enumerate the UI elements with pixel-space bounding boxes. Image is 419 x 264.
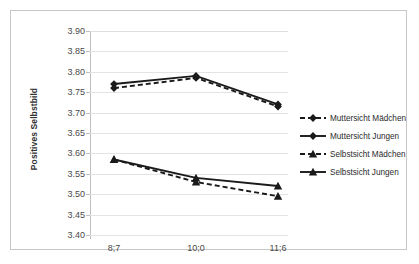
series-lines — [90, 31, 288, 235]
y-axis-tick-label: 3.40 — [43, 230, 85, 240]
y-axis-tick-label: 3.75 — [43, 87, 85, 97]
data-point-marker — [274, 192, 282, 200]
y-axis-title-text: Positives Selbstbild — [29, 88, 39, 170]
data-point-marker — [110, 80, 118, 88]
plot-area: 8;710;011;6 — [90, 31, 288, 235]
grid-line — [90, 235, 288, 236]
legend-item: Selbstsicht Jungen — [299, 163, 419, 181]
legend-label: Selbstsicht Jungen — [330, 168, 399, 177]
legend-label: Selbstsicht Mädchen — [330, 150, 406, 159]
legend-label: Muttersicht Mädchen — [330, 114, 406, 123]
y-axis-tick-label: 3.45 — [43, 210, 85, 220]
y-axis-tick-label: 3.55 — [43, 169, 85, 179]
y-axis-tick-label: 3.80 — [43, 67, 85, 77]
y-axis-tick — [86, 235, 90, 236]
y-axis-tick-label: 3.60 — [43, 148, 85, 158]
x-axis-tick-label: 10;0 — [187, 243, 205, 253]
legend-marker-diamond-icon — [299, 111, 327, 125]
legend-marker-diamond-icon — [299, 129, 327, 143]
legend-item: Muttersicht Jungen — [299, 127, 419, 145]
y-axis-tick-label: 3.50 — [43, 189, 85, 199]
legend-label: Muttersicht Jungen — [330, 132, 399, 141]
x-axis-tick-label: 8;7 — [108, 243, 121, 253]
legend-item: Muttersicht Mädchen — [299, 109, 419, 127]
y-axis-tick-label: 3.65 — [43, 128, 85, 138]
y-axis-title: Positives Selbstbild — [25, 59, 43, 199]
chart-frame: Positives Selbstbild 3.903.853.803.753.7… — [10, 10, 407, 250]
x-axis-tick-label: 11;6 — [270, 243, 287, 253]
y-axis-tick-label: 3.90 — [43, 26, 85, 36]
legend-marker-triangle-icon — [299, 165, 327, 179]
y-axis-tick-labels: 3.903.853.803.753.703.653.603.553.503.45… — [43, 31, 85, 235]
legend-marker-triangle-icon — [299, 147, 327, 161]
legend-item: Selbstsicht Mädchen — [299, 145, 419, 163]
y-axis-tick-label: 3.70 — [43, 108, 85, 118]
y-axis-tick-label: 3.85 — [43, 46, 85, 56]
chart-legend: Muttersicht MädchenMuttersicht JungenSel… — [299, 109, 419, 181]
